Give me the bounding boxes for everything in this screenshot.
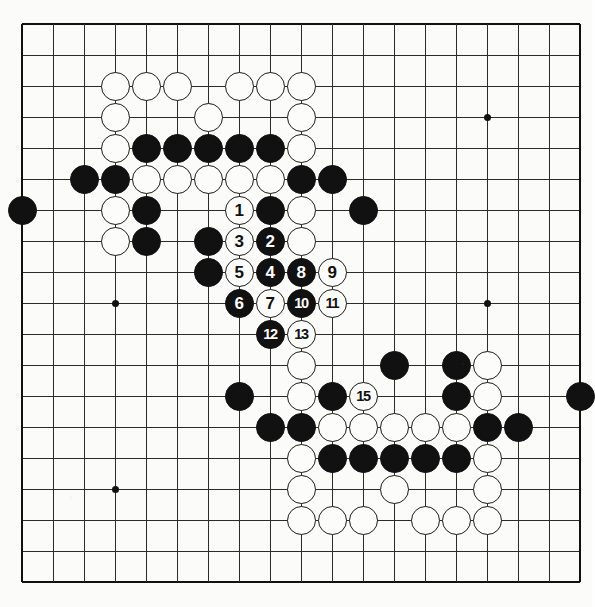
stone-white[interactable] [287, 196, 316, 225]
stone-black[interactable] [256, 413, 285, 442]
move-number-label: 13 [294, 326, 308, 341]
move-number-label: 5 [235, 263, 244, 280]
stone-white[interactable] [194, 103, 223, 132]
stone-black[interactable] [101, 165, 130, 194]
stone-black[interactable] [318, 444, 347, 473]
move-number-label: 11 [326, 295, 339, 310]
stone-black[interactable] [256, 196, 285, 225]
stone-white[interactable] [380, 413, 409, 442]
move-stone-10[interactable]: 10 [287, 289, 316, 318]
move-stone-15[interactable]: 15 [349, 382, 378, 411]
stone-white[interactable] [287, 382, 316, 411]
stone-white[interactable] [101, 196, 130, 225]
move-number-label: 10 [294, 295, 308, 310]
move-stone-12[interactable]: 12 [256, 320, 285, 349]
stone-black[interactable] [8, 196, 37, 225]
move-stone-8[interactable]: 8 [287, 258, 316, 287]
move-number-label: 8 [297, 263, 306, 280]
stone-black[interactable] [442, 351, 471, 380]
stone-white[interactable] [287, 72, 316, 101]
move-stone-11[interactable]: 11 [318, 289, 347, 318]
stone-black[interactable] [318, 382, 347, 411]
stone-black[interactable] [163, 134, 192, 163]
stone-white[interactable] [287, 103, 316, 132]
stone-white[interactable] [318, 506, 347, 535]
move-stone-3[interactable]: 3 [225, 227, 254, 256]
stone-white[interactable] [473, 475, 502, 504]
stone-white[interactable] [349, 506, 378, 535]
move-stone-2[interactable]: 2 [256, 227, 285, 256]
move-stone-5[interactable]: 5 [225, 258, 254, 287]
stone-white[interactable] [163, 72, 192, 101]
stone-white[interactable] [163, 165, 192, 194]
move-stone-7[interactable]: 7 [256, 289, 285, 318]
stone-white[interactable] [411, 506, 440, 535]
move-number-label: 3 [235, 232, 244, 249]
stone-black[interactable] [70, 165, 99, 194]
stone-white[interactable] [473, 382, 502, 411]
stone-white[interactable] [349, 413, 378, 442]
stone-black[interactable] [442, 382, 471, 411]
stone-black[interactable] [287, 413, 316, 442]
stone-black[interactable] [132, 227, 161, 256]
stone-black[interactable] [256, 134, 285, 163]
stone-white[interactable] [287, 227, 316, 256]
stone-white[interactable] [287, 444, 316, 473]
stone-white[interactable] [287, 351, 316, 380]
stone-white[interactable] [132, 72, 161, 101]
stone-black[interactable] [380, 444, 409, 473]
stone-white[interactable] [101, 227, 130, 256]
move-stone-9[interactable]: 9 [318, 258, 347, 287]
stone-white[interactable] [473, 444, 502, 473]
stone-white[interactable] [132, 165, 161, 194]
stone-white[interactable] [287, 506, 316, 535]
stone-black[interactable] [380, 351, 409, 380]
stone-black[interactable] [318, 165, 347, 194]
move-stone-6[interactable]: 6 [225, 289, 254, 318]
stone-black[interactable] [132, 134, 161, 163]
stone-white[interactable] [225, 72, 254, 101]
stone-black[interactable] [349, 444, 378, 473]
grid-line-vertical [579, 24, 581, 582]
grid-line-vertical [177, 24, 178, 582]
stone-white[interactable] [287, 475, 316, 504]
stone-black[interactable] [473, 413, 502, 442]
stone-black[interactable] [194, 258, 223, 287]
stone-white[interactable] [411, 413, 440, 442]
stone-black[interactable] [442, 444, 471, 473]
stone-black[interactable] [566, 382, 595, 411]
stone-white[interactable] [101, 134, 130, 163]
stone-black[interactable] [194, 227, 223, 256]
stone-black[interactable] [132, 196, 161, 225]
grid-line-vertical [363, 24, 364, 582]
stone-white[interactable] [473, 506, 502, 535]
move-stone-13[interactable]: 13 [287, 320, 316, 349]
grid-line-vertical [456, 24, 457, 582]
stone-white[interactable] [287, 134, 316, 163]
stone-white[interactable] [318, 413, 347, 442]
stone-white[interactable] [442, 506, 471, 535]
stone-white[interactable] [380, 475, 409, 504]
stone-white[interactable] [256, 72, 285, 101]
stone-white[interactable] [442, 413, 471, 442]
stone-black[interactable] [225, 134, 254, 163]
stone-white[interactable] [101, 72, 130, 101]
stone-black[interactable] [349, 196, 378, 225]
move-stone-1[interactable]: 1 [225, 196, 254, 225]
stone-white[interactable] [473, 351, 502, 380]
move-number-label: 9 [328, 263, 337, 280]
stone-white[interactable] [194, 165, 223, 194]
stone-white[interactable] [225, 165, 254, 194]
move-number-label: 7 [266, 294, 275, 311]
stone-black[interactable] [411, 444, 440, 473]
move-stone-4[interactable]: 4 [256, 258, 285, 287]
stone-black[interactable] [504, 413, 533, 442]
grid-line-vertical [84, 24, 85, 582]
stone-white[interactable] [101, 103, 130, 132]
stone-white[interactable] [256, 165, 285, 194]
stone-black[interactable] [225, 382, 254, 411]
stone-black[interactable] [287, 165, 316, 194]
stone-black[interactable] [194, 134, 223, 163]
star-point [112, 486, 119, 493]
